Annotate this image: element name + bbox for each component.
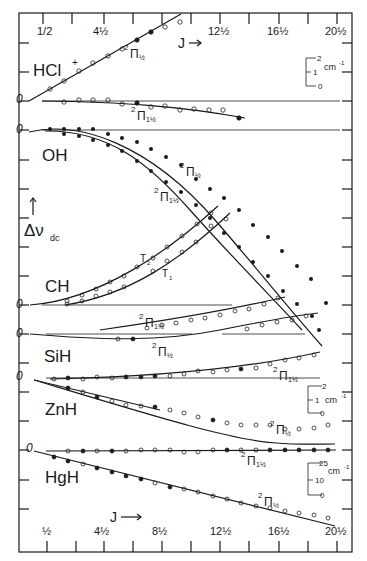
zero-label: 0 [16, 92, 23, 106]
hcl-label: HCl [33, 61, 61, 80]
bottom-axis-labels: ½ 4½ 8½ 12½ 16½ 20½ [42, 525, 346, 537]
svg-text:½: ½ [195, 172, 201, 179]
oh-panel: 0 OH 2 Π ½ 2 Π 1½ [16, 122, 340, 346]
ch-2pi-1half-curve [100, 297, 285, 330]
ch-panel: CH 0 T 2 T 1 2 Π 1½ [16, 206, 285, 330]
svg-text:12½: 12½ [208, 25, 229, 37]
svg-text:2: 2 [152, 341, 157, 350]
svg-text:Π: Π [160, 190, 169, 204]
svg-text:½: ½ [167, 352, 173, 359]
svg-text:2: 2 [317, 54, 322, 63]
svg-text:20½: 20½ [325, 25, 346, 37]
svg-text:2: 2 [322, 382, 327, 391]
svg-text:½: ½ [273, 502, 279, 509]
top-axis-labels: 1/2 4½ 12½ 16½ 20½ [37, 25, 346, 37]
hgh-label: HgH [45, 468, 79, 487]
svg-text:4½: 4½ [94, 525, 109, 537]
svg-text:½: ½ [42, 525, 51, 537]
svg-text:2: 2 [258, 491, 263, 500]
svg-text:-1: -1 [341, 393, 347, 399]
znh-label: ZnH [45, 400, 77, 419]
svg-text:½: ½ [285, 430, 291, 437]
svg-text:4½: 4½ [93, 25, 108, 37]
svg-text:cm: cm [328, 466, 340, 476]
y-axis-label: Δν [24, 221, 44, 240]
sih-panel: 0 2 Π ½ SiH 0 2 Π 1½ [16, 313, 320, 383]
j-axis-label-bottom: J [110, 509, 117, 525]
svg-text:cm: cm [325, 395, 337, 405]
svg-text:1½: 1½ [288, 376, 298, 383]
svg-text:1/2: 1/2 [37, 25, 52, 37]
svg-text:Π: Π [186, 165, 195, 179]
hgh-2pi-1half-curve [46, 450, 336, 451]
svg-text:10: 10 [315, 476, 324, 485]
svg-text:2: 2 [154, 186, 159, 195]
svg-text:1: 1 [315, 396, 320, 405]
sih-label: SiH [44, 347, 71, 366]
left-axis-ticks [19, 43, 29, 509]
svg-text:2: 2 [124, 43, 129, 52]
oh-label: OH [42, 146, 68, 165]
right-axis-ticks [342, 43, 352, 509]
svg-text:16½: 16½ [268, 525, 289, 537]
svg-text:1½: 1½ [146, 116, 156, 123]
svg-text:2: 2 [241, 450, 246, 459]
svg-text:Π: Π [137, 109, 146, 123]
svg-text:0: 0 [320, 409, 325, 418]
top-axis-ticks [43, 13, 337, 24]
svg-text:0: 0 [318, 82, 323, 91]
svg-text:cm: cm [324, 62, 336, 72]
svg-text:T: T [140, 253, 146, 264]
svg-text:0: 0 [16, 326, 23, 340]
bottom-axis-ticks [47, 541, 337, 552]
svg-text:2: 2 [147, 260, 151, 266]
hgh-panel: 0 2 Π 1½ HgH 2 Π ½ 25 10 0 cm -1 [26, 441, 350, 526]
spectroscopy-chart: 1/2 4½ 12½ 16½ 20½ J ½ 4½ 8½ 12½ 16½ 20½… [0, 0, 367, 561]
svg-text:1½: 1½ [169, 197, 179, 204]
sih-2pi-half-curve [30, 313, 318, 339]
svg-text:Π: Π [130, 47, 139, 61]
svg-text:Π: Π [145, 316, 154, 330]
hgh-2pi-half-curve [34, 451, 335, 526]
svg-text:2: 2 [139, 312, 144, 321]
svg-text:+: + [72, 57, 78, 68]
svg-text:1: 1 [313, 68, 318, 77]
svg-text:½: ½ [139, 54, 145, 61]
j-axis-label-top: J [178, 35, 185, 51]
svg-text:0: 0 [16, 297, 23, 311]
svg-text:Π: Π [276, 423, 285, 437]
svg-text:Π: Π [247, 454, 256, 468]
svg-text:0: 0 [320, 491, 325, 500]
svg-text:0: 0 [26, 441, 33, 455]
ch-label: CH [45, 277, 70, 296]
svg-text:0: 0 [16, 369, 23, 383]
svg-text:8½: 8½ [152, 525, 167, 537]
svg-text:2: 2 [131, 105, 136, 114]
svg-text:1: 1 [169, 275, 173, 281]
svg-text:T: T [162, 268, 168, 279]
svg-text:2: 2 [270, 419, 275, 428]
svg-text:Π: Π [264, 495, 273, 509]
svg-text:20½: 20½ [325, 525, 346, 537]
svg-text:2: 2 [180, 161, 185, 170]
oh-2pi-half-curve [29, 129, 322, 346]
svg-text:1½: 1½ [154, 323, 164, 330]
svg-text:16½: 16½ [267, 25, 288, 37]
y-axis-label-sub: dc [50, 233, 60, 243]
svg-text:Π: Π [279, 369, 288, 383]
svg-text:12½: 12½ [210, 525, 231, 537]
svg-text:2: 2 [273, 365, 278, 374]
svg-text:-1: -1 [344, 464, 350, 470]
hcl-panel: HCl + 0 2 Π ½ 2 Π 1½ 2 1 0 cm [16, 14, 345, 123]
znh-panel: ZnH 2 Π ½ 2 1 0 cm -1 [34, 380, 347, 444]
svg-text:0: 0 [16, 122, 23, 136]
svg-text:Π: Π [158, 345, 167, 359]
svg-text:1½: 1½ [256, 461, 266, 468]
svg-text:-1: -1 [339, 60, 345, 66]
